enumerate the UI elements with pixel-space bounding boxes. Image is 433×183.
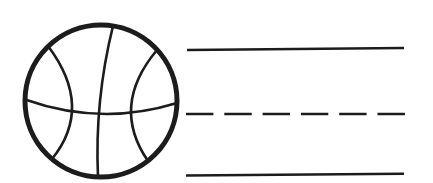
writing-line-bottom bbox=[186, 174, 404, 176]
worksheet-row bbox=[0, 0, 433, 183]
page-background bbox=[0, 0, 433, 183]
worksheet-canvas bbox=[0, 0, 433, 183]
